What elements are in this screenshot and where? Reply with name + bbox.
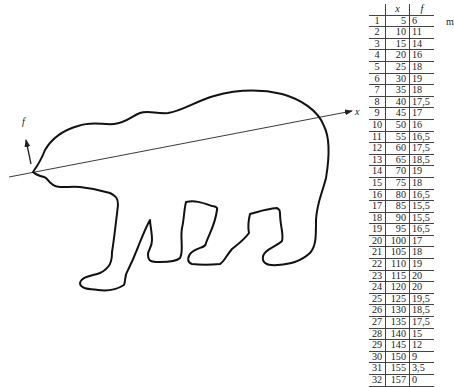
row-index: 22 <box>369 259 386 271</box>
row-x-value: 115 <box>386 270 410 282</box>
row-f-value: 17 <box>410 235 435 247</box>
row-index: 31 <box>369 363 386 375</box>
row-x-value: 105 <box>386 247 410 259</box>
table-row: 189015,5 <box>369 212 434 224</box>
row-f-value: 20 <box>410 282 435 294</box>
row-f-value: 18 <box>410 61 435 73</box>
row-x-value: 157 <box>386 375 410 387</box>
row-f-value: 16 <box>410 50 435 62</box>
row-index: 2 <box>369 27 386 39</box>
table-row: 178515,5 <box>369 201 434 213</box>
measurement-table: x f 156210113151442016525186301973518840… <box>369 4 434 387</box>
row-f-value: 14 <box>410 38 435 50</box>
row-x-value: 60 <box>386 143 410 155</box>
row-index: 13 <box>369 154 386 166</box>
table-row: 2110518 <box>369 247 434 259</box>
row-index: 3 <box>369 38 386 50</box>
row-index: 28 <box>369 328 386 340</box>
table-row: 126017,5 <box>369 143 434 155</box>
row-index: 27 <box>369 317 386 329</box>
row-x-value: 50 <box>386 119 410 131</box>
row-index: 14 <box>369 166 386 178</box>
row-index: 17 <box>369 201 386 213</box>
row-x-value: 20 <box>386 50 410 62</box>
row-x-value: 15 <box>386 38 410 50</box>
table-row: 84017,5 <box>369 96 434 108</box>
row-x-value: 30 <box>386 73 410 85</box>
row-f-value: 17,5 <box>410 96 435 108</box>
row-f-value: 6 <box>410 15 435 27</box>
table-row: 156 <box>369 15 434 27</box>
row-f-value: 18 <box>410 177 435 189</box>
row-index: 30 <box>369 351 386 363</box>
row-f-value: 0 <box>410 375 435 387</box>
row-f-value: 16,5 <box>410 189 435 201</box>
row-index: 20 <box>369 235 386 247</box>
row-x-value: 80 <box>386 189 410 201</box>
row-x-value: 140 <box>386 328 410 340</box>
table-row: 2914512 <box>369 340 434 352</box>
row-f-value: 9 <box>410 351 435 363</box>
row-f-value: 11 <box>410 27 435 39</box>
row-index: 32 <box>369 375 386 387</box>
row-x-value: 155 <box>386 363 410 375</box>
row-x-value: 90 <box>386 212 410 224</box>
row-x-value: 95 <box>386 224 410 236</box>
table-row: 2010017 <box>369 235 434 247</box>
row-f-value: 15,5 <box>410 212 435 224</box>
header-x: x <box>386 4 410 15</box>
table-row: 2211019 <box>369 259 434 271</box>
row-f-value: 18,5 <box>410 154 435 166</box>
row-index: 16 <box>369 189 386 201</box>
table-row: 199516,5 <box>369 224 434 236</box>
row-index: 7 <box>369 85 386 97</box>
table-row: 301509 <box>369 351 434 363</box>
table-row: 115516,5 <box>369 131 434 143</box>
table-row: 2412020 <box>369 282 434 294</box>
row-x-value: 85 <box>386 201 410 213</box>
row-x-value: 35 <box>386 85 410 97</box>
x-axis-label: x <box>354 106 360 117</box>
table-row: 147019 <box>369 166 434 178</box>
row-x-value: 75 <box>386 177 410 189</box>
table-row: 2512519,5 <box>369 293 434 305</box>
row-x-value: 100 <box>386 235 410 247</box>
row-f-value: 16,5 <box>410 131 435 143</box>
row-f-value: 15 <box>410 328 435 340</box>
row-f-value: 18 <box>410 247 435 259</box>
row-index: 12 <box>369 143 386 155</box>
x-axis-line <box>9 111 352 177</box>
data-table-container: x f 156210113151442016525186301973518840… <box>369 4 434 387</box>
row-f-value: 3,5 <box>410 363 435 375</box>
table-row: 73518 <box>369 85 434 97</box>
table-row: 136518,5 <box>369 154 434 166</box>
row-x-value: 125 <box>386 293 410 305</box>
row-index: 29 <box>369 340 386 352</box>
row-f-value: 18 <box>410 85 435 97</box>
row-index: 4 <box>369 50 386 62</box>
row-f-value: 18,5 <box>410 305 435 317</box>
row-x-value: 130 <box>386 305 410 317</box>
row-x-value: 55 <box>386 131 410 143</box>
row-x-value: 70 <box>386 166 410 178</box>
table-row: 63019 <box>369 73 434 85</box>
row-f-value: 20 <box>410 270 435 282</box>
row-index: 26 <box>369 305 386 317</box>
row-f-value: 19 <box>410 166 435 178</box>
row-index: 9 <box>369 108 386 120</box>
header-f: f <box>410 4 435 15</box>
row-index: 24 <box>369 282 386 294</box>
row-f-value: 19 <box>410 259 435 271</box>
table-row: 31514 <box>369 38 434 50</box>
row-f-value: 19,5 <box>410 293 435 305</box>
row-index: 15 <box>369 177 386 189</box>
row-f-value: 16,5 <box>410 224 435 236</box>
row-x-value: 10 <box>386 27 410 39</box>
table-row: 157518 <box>369 177 434 189</box>
row-f-value: 15,5 <box>410 201 435 213</box>
table-row: 52518 <box>369 61 434 73</box>
row-index: 25 <box>369 293 386 305</box>
row-x-value: 25 <box>386 61 410 73</box>
header-index <box>369 4 386 15</box>
table-row: 105016 <box>369 119 434 131</box>
